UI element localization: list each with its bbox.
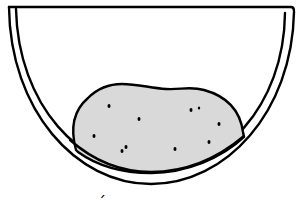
speckle <box>108 104 111 108</box>
speckle <box>198 107 200 110</box>
speckle <box>121 149 124 153</box>
speckle <box>138 117 141 121</box>
speckle <box>218 122 221 126</box>
speckle <box>190 108 193 112</box>
speckle <box>208 140 211 144</box>
bowl-drawing: ´ <box>0 0 303 203</box>
speckle <box>125 145 128 149</box>
bottom-mark: ´ <box>98 193 106 203</box>
speckle <box>174 147 177 151</box>
speckle <box>93 134 96 138</box>
